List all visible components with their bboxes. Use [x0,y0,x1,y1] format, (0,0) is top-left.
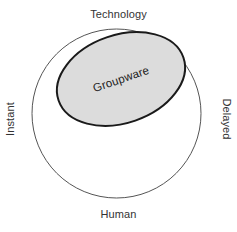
axis-label-technology: Technology [0,8,237,20]
axis-label-instant: Instant [4,89,16,149]
axis-label-delayed: Delayed [221,89,233,149]
groupware-diagram: Groupware Technology Human Instant Delay… [0,0,237,232]
diagram-canvas: Groupware [0,0,237,232]
axis-label-human: Human [0,208,237,220]
